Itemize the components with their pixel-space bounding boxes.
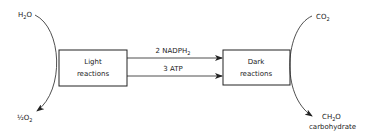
- atp-label: 3 ATP: [163, 65, 182, 73]
- nadph-label: 2 NADPH2: [156, 47, 191, 56]
- photosynthesis-diagram: Light reactions Dark reactions 2 NADPH2 …: [0, 0, 371, 136]
- dark-reactions-box: Dark reactions: [223, 50, 290, 85]
- light-box-line1: Light: [84, 58, 102, 66]
- water-to-oxygen-arrow: [35, 15, 57, 111]
- co2-label: CO2: [316, 13, 330, 22]
- dark-box-line2: reactions: [240, 70, 273, 78]
- water-label: H2O: [18, 11, 32, 20]
- light-box-line2: reactions: [77, 70, 110, 78]
- oxygen-label: ½O2: [17, 114, 33, 123]
- dark-box-line1: Dark: [248, 58, 266, 66]
- light-reactions-box: Light reactions: [59, 50, 127, 86]
- co2-to-carbohydrate-arrow: [290, 16, 312, 116]
- ch2o-label: CH2O: [322, 113, 341, 122]
- nadph-arrow: 2 NADPH2: [127, 47, 222, 58]
- carbohydrate-label: carbohydrate: [309, 123, 356, 131]
- atp-arrow: 3 ATP: [127, 65, 222, 76]
